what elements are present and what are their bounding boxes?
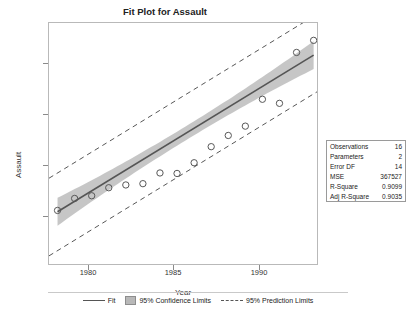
stats-value: 14: [395, 162, 402, 171]
band-swatch-icon: [125, 296, 136, 305]
stats-label: MSE: [330, 172, 344, 181]
stats-row: Parameters 2: [327, 151, 405, 161]
legend-label: 95% Prediction Limits: [246, 297, 313, 304]
legend-label: Fit: [108, 297, 116, 304]
stats-value: 0.9035: [382, 192, 402, 201]
stats-value: 2: [398, 152, 402, 161]
stats-row: R-Square 0.9099: [327, 181, 405, 191]
legend-divider: [48, 292, 348, 293]
stats-value: 16: [395, 142, 402, 151]
chart-legend: Fit 95% Confidence Limits 95% Prediction…: [48, 296, 348, 305]
legend-item-fit: Fit: [83, 297, 116, 304]
legend-item-confidence: 95% Confidence Limits: [125, 296, 211, 305]
y-axis-label: Assault: [14, 152, 23, 178]
legend-item-prediction: 95% Prediction Limits: [221, 297, 313, 304]
stats-row: Observations 16: [327, 141, 405, 151]
x-tick-mark: [88, 265, 89, 270]
plot-svg: [49, 23, 317, 264]
fit-summary-box: Observations 16 Parameters 2 Error DF 14…: [326, 140, 406, 202]
page-title: Fit Plot for Assault: [0, 6, 330, 17]
x-tick-mark: [173, 265, 174, 270]
legend-label: 95% Confidence Limits: [139, 297, 211, 304]
stats-row: MSE 367527: [327, 171, 405, 181]
fit-plot-page: Fit Plot for Assault Assault 2000 4000 6…: [0, 0, 410, 321]
dashed-line-swatch-icon: [221, 300, 243, 301]
line-swatch-icon: [83, 300, 105, 301]
stats-row: Adj R-Square 0.9035: [327, 191, 405, 201]
plot-area: [48, 22, 318, 265]
stats-value: 0.9099: [382, 182, 402, 191]
stats-label: Error DF: [330, 162, 355, 171]
x-tick-mark: [259, 265, 260, 270]
stats-label: Adj R-Square: [330, 192, 369, 201]
stats-row: Error DF 14: [327, 161, 405, 171]
stats-label: R-Square: [330, 182, 358, 191]
stats-label: Observations: [330, 142, 368, 151]
stats-value: 367527: [380, 172, 402, 181]
stats-label: Parameters: [330, 152, 364, 161]
